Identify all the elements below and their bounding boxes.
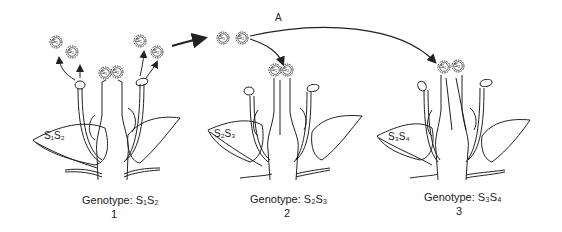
arrow-label: A (275, 12, 282, 23)
ovary-label: S₂S₃ (214, 128, 235, 139)
flower-number: 1 (111, 208, 117, 220)
pollen-label: S₁ (52, 38, 58, 44)
genotype-value: S₁S₂ (136, 194, 159, 206)
genotype-label: Genotype: (250, 193, 301, 205)
ovary-label: S₁S₂ (44, 130, 65, 141)
genotype-caption: Genotype: S₂S₃ (250, 193, 327, 205)
genotype-value: S₃S₄ (478, 191, 502, 203)
genotype-caption: Genotype: S₃S₄ (424, 191, 501, 203)
pollen-label: S₂ (238, 34, 244, 40)
flower-3 (377, 75, 530, 180)
pollen-label: S₁ (271, 66, 277, 72)
pollen-label: S₁ (136, 37, 142, 43)
genotype-value: S₂S₃ (304, 193, 327, 205)
pollen-label: S₁ (440, 63, 446, 69)
pollen-label: S₂ (153, 48, 159, 54)
pollen-label: S₂ (283, 66, 289, 72)
genotype-label: Genotype: (424, 191, 475, 203)
pollen-label: S₁ (101, 69, 107, 75)
genotype-label: Genotype: (82, 194, 133, 206)
pollen-label: S₂ (113, 68, 119, 74)
pollen-label: S₂ (68, 48, 74, 54)
pollen-label: S₁ (219, 34, 225, 40)
flower-number: 2 (284, 207, 290, 219)
ovary-label: S₃S₄ (388, 131, 410, 142)
genotype-caption: Genotype: S₁S₂ (82, 194, 158, 206)
pollen-label: S₂ (454, 62, 460, 68)
flower-number: 3 (456, 205, 462, 217)
